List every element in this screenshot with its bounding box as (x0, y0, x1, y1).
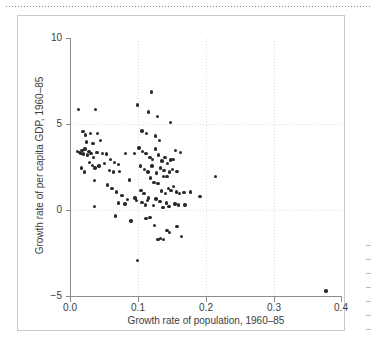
data-point (144, 217, 147, 220)
data-point (94, 108, 97, 111)
data-point (124, 152, 127, 155)
data-point (163, 156, 166, 159)
data-point (110, 187, 113, 190)
x-tick-label-0.4: 0.4 (326, 303, 356, 313)
data-point (93, 166, 96, 169)
data-point (158, 200, 161, 203)
data-point (214, 175, 217, 178)
data-point (103, 162, 106, 165)
data-point (175, 170, 178, 173)
data-point (112, 170, 115, 173)
data-point (182, 191, 185, 194)
data-point (140, 201, 143, 204)
data-point (150, 90, 153, 93)
data-point (144, 152, 147, 155)
data-point (117, 163, 120, 166)
data-point (83, 147, 86, 150)
data-point (106, 183, 109, 186)
data-point (137, 146, 140, 149)
data-point (83, 170, 86, 173)
data-point (126, 198, 129, 201)
data-point (169, 121, 172, 124)
data-point (189, 190, 192, 193)
data-point (167, 205, 170, 208)
data-point (93, 179, 96, 182)
data-point (77, 108, 80, 111)
data-point (129, 219, 132, 222)
data-point (85, 140, 88, 143)
data-point (146, 170, 149, 173)
data-point (123, 202, 126, 205)
y-tick-5 (66, 124, 71, 125)
data-point (162, 238, 165, 241)
data-point (178, 192, 181, 195)
data-point (84, 133, 87, 136)
data-point (155, 171, 158, 174)
y-tick-label--5: −5 (36, 291, 62, 301)
data-point (166, 162, 169, 165)
data-point (151, 158, 154, 161)
data-point (97, 164, 100, 167)
data-point (117, 201, 120, 204)
x-axis-label: Growth rate of population, 1960–85 (70, 315, 342, 326)
data-point (172, 185, 175, 188)
data-point (93, 205, 96, 208)
data-point (99, 139, 102, 142)
data-point (82, 152, 85, 155)
data-point (179, 151, 182, 154)
data-point (118, 170, 121, 173)
data-point (165, 175, 168, 178)
data-point (153, 224, 156, 227)
data-point (177, 203, 180, 206)
y-tick-10 (66, 38, 71, 39)
data-point (91, 142, 94, 145)
data-point (101, 152, 104, 155)
data-point (152, 181, 155, 184)
data-point (115, 190, 118, 193)
data-point (154, 197, 157, 200)
data-point (152, 204, 155, 207)
data-point (174, 149, 177, 152)
data-point (147, 196, 150, 199)
data-point (139, 164, 142, 167)
data-point (95, 151, 98, 154)
data-point (156, 115, 159, 118)
data-point (168, 231, 171, 234)
data-point (180, 235, 183, 238)
x-tick-label-0.1: 0.1 (123, 303, 153, 313)
data-point (156, 182, 159, 185)
data-point (171, 158, 174, 161)
page-edge-marks (366, 243, 376, 343)
data-point (144, 203, 147, 206)
data-point (161, 206, 164, 209)
data-point (140, 129, 143, 132)
gridline-x-0.2 (206, 38, 207, 296)
data-point (183, 203, 186, 206)
y-tick-0 (66, 210, 71, 211)
data-point (105, 152, 108, 155)
scatter-plot: 10 5 0 −5 0.0 0.1 0.2 0.3 0.4 Growth rat… (0, 0, 378, 360)
data-point (154, 147, 157, 150)
data-point (80, 166, 83, 169)
data-point (109, 158, 112, 161)
data-point (154, 134, 157, 137)
data-point (150, 164, 153, 167)
data-point (149, 176, 152, 179)
y-axis-line (70, 38, 71, 297)
data-point (198, 195, 201, 198)
data-point (89, 132, 92, 135)
data-point (92, 156, 95, 159)
gridline-x-0.3 (274, 38, 275, 296)
data-point (114, 214, 117, 217)
data-point (168, 170, 171, 173)
data-point (145, 132, 148, 135)
x-tick-label-0.0: 0.0 (55, 303, 85, 313)
data-point (113, 161, 116, 164)
data-point (160, 189, 163, 192)
data-point (128, 178, 131, 181)
data-point (133, 152, 136, 155)
data-point (96, 132, 99, 135)
data-point (120, 194, 123, 197)
data-point (160, 159, 163, 162)
data-point (158, 139, 161, 142)
